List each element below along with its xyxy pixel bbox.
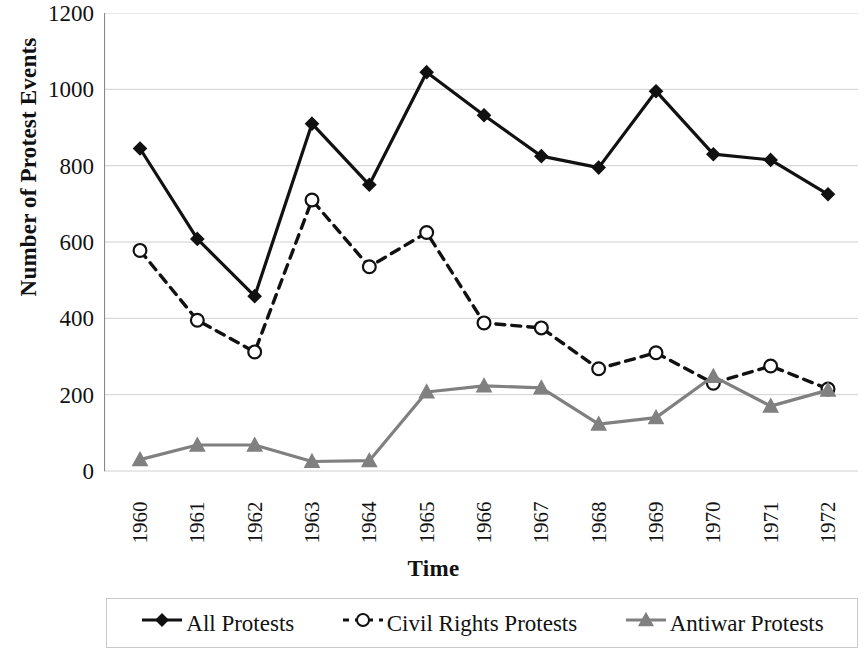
plot-area <box>104 13 858 471</box>
data-point-marker <box>650 346 663 359</box>
legend-marker-icon <box>341 609 385 637</box>
x-tick-label: 1970 <box>703 488 724 558</box>
legend-label: Civil Rights Protests <box>387 612 577 635</box>
legend-marker-icon <box>140 609 184 637</box>
series-line <box>140 72 828 296</box>
y-tick-label: 1200 <box>18 2 94 25</box>
x-tick-label: 1962 <box>244 488 265 558</box>
legend-item: Antiwar Protests <box>624 609 824 637</box>
x-tick-label: 1964 <box>359 488 380 558</box>
y-axis-tick-labels: 020040060080010001200 <box>18 0 94 480</box>
legend-label: Antiwar Protests <box>670 612 824 635</box>
data-point-marker <box>363 260 376 273</box>
data-point-marker <box>535 321 548 334</box>
y-tick-label: 200 <box>18 383 94 406</box>
x-tick-label: 1971 <box>760 488 781 558</box>
chart-legend: All ProtestsCivil Rights ProtestsAntiwar… <box>106 598 858 648</box>
y-tick-label: 800 <box>18 154 94 177</box>
data-point-marker <box>191 314 204 327</box>
data-point-marker <box>420 226 433 239</box>
legend-item: All Protests <box>140 609 294 637</box>
legend-item: Civil Rights Protests <box>341 609 577 637</box>
y-tick-label: 600 <box>18 231 94 254</box>
x-axis-tick-labels: 1960196119621963196419651966196719681969… <box>104 474 858 550</box>
series-line <box>140 200 828 389</box>
x-tick-label: 1965 <box>416 488 437 558</box>
data-point-marker <box>248 346 261 359</box>
data-point-marker <box>134 244 147 257</box>
data-point-marker <box>706 369 720 382</box>
x-tick-label: 1968 <box>588 488 609 558</box>
data-point-marker <box>592 362 605 375</box>
x-tick-label: 1969 <box>646 488 667 558</box>
x-tick-label: 1960 <box>130 488 151 558</box>
data-point-marker <box>478 317 491 330</box>
legend-marker-icon <box>624 609 668 637</box>
x-tick-label: 1972 <box>818 488 839 558</box>
x-tick-label: 1963 <box>302 488 323 558</box>
data-point-marker <box>306 194 319 207</box>
chart-canvas <box>104 13 858 477</box>
protest-events-line-chart: Number of Protest Events 020040060080010… <box>0 0 867 652</box>
y-tick-label: 0 <box>18 460 94 483</box>
y-tick-label: 400 <box>18 307 94 330</box>
x-tick-label: 1967 <box>531 488 552 558</box>
x-tick-label: 1966 <box>474 488 495 558</box>
x-axis-title: Time <box>0 556 867 582</box>
y-tick-label: 1000 <box>18 78 94 101</box>
legend-label: All Protests <box>186 612 294 635</box>
x-tick-label: 1961 <box>187 488 208 558</box>
data-point-marker <box>764 360 777 373</box>
